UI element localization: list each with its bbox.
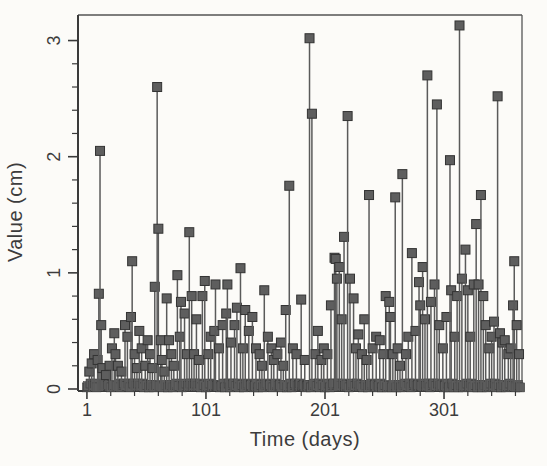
data-marker	[110, 329, 119, 338]
data-marker	[395, 361, 404, 370]
data-marker	[135, 326, 144, 335]
data-marker	[337, 315, 346, 324]
x-tick-label: 301	[429, 400, 459, 420]
data-marker	[96, 146, 105, 155]
data-marker	[167, 350, 176, 359]
data-marker	[162, 294, 171, 303]
data-marker	[157, 355, 166, 364]
y-tick-label: 2	[44, 152, 64, 162]
data-marker	[175, 332, 184, 341]
data-marker	[509, 301, 518, 310]
data-marker	[343, 112, 352, 121]
data-marker	[160, 367, 169, 376]
data-marker	[432, 100, 441, 109]
data-marker	[474, 280, 483, 289]
data-marker	[200, 276, 209, 285]
data-marker	[515, 350, 524, 359]
data-marker	[180, 309, 189, 318]
data-marker	[192, 315, 201, 324]
data-marker	[285, 181, 294, 190]
data-marker	[393, 344, 402, 353]
data-marker	[198, 292, 207, 301]
y-tick-label: 3	[44, 36, 64, 46]
data-marker	[238, 344, 247, 353]
data-marker	[461, 245, 470, 254]
x-tick-label: 101	[191, 400, 221, 420]
stem-plot: 01231101201301 Value (cm) Time (days)	[0, 0, 547, 466]
data-marker	[430, 280, 439, 289]
data-marker	[279, 361, 288, 370]
data-marker	[187, 292, 196, 301]
data-marker	[485, 344, 494, 353]
data-marker	[126, 312, 135, 321]
data-marker	[97, 321, 106, 330]
data-marker	[300, 355, 309, 364]
data-marker	[418, 263, 427, 272]
data-marker	[365, 191, 374, 200]
data-marker	[292, 350, 301, 359]
data-marker	[445, 156, 454, 165]
data-marker	[94, 289, 103, 298]
data-marker	[307, 109, 316, 118]
data-marker	[416, 301, 425, 310]
data-marker	[143, 336, 152, 345]
data-marker	[176, 297, 185, 306]
data-marker	[153, 83, 162, 92]
data-marker	[398, 170, 407, 179]
data-marker	[165, 336, 174, 345]
data-marker	[455, 21, 464, 30]
data-marker	[510, 257, 519, 266]
data-marker	[476, 191, 485, 200]
data-marker	[230, 321, 239, 330]
data-marker	[379, 350, 388, 359]
data-marker	[385, 297, 394, 306]
data-marker	[345, 274, 354, 283]
data-marker	[223, 280, 232, 289]
y-axis-label: Value (cm)	[4, 162, 26, 262]
data-marker	[349, 294, 358, 303]
data-marker	[128, 257, 137, 266]
data-marker	[204, 350, 213, 359]
data-marker	[132, 364, 141, 373]
x-tick-label: 201	[310, 400, 340, 420]
data-marker	[375, 336, 384, 345]
x-tick-label: 1	[82, 400, 92, 420]
data-marker	[222, 309, 231, 318]
data-marker	[487, 332, 496, 341]
data-marker	[276, 338, 285, 347]
data-marker	[156, 336, 165, 345]
data-marker	[297, 295, 306, 304]
data-marker	[260, 286, 269, 295]
data-marker	[257, 361, 266, 370]
data-marker	[236, 264, 245, 273]
data-marker	[360, 315, 369, 324]
data-marker	[263, 332, 272, 341]
data-marker	[335, 263, 344, 272]
data-marker	[305, 34, 314, 43]
data-marker	[512, 321, 521, 330]
data-marker	[154, 224, 163, 233]
data-marker	[407, 249, 416, 258]
data-marker	[146, 350, 155, 359]
data-marker	[391, 193, 400, 202]
data-marker	[173, 271, 182, 280]
data-marker	[354, 330, 363, 339]
data-marker	[362, 355, 371, 364]
data-marker	[420, 315, 429, 324]
y-tick-label: 0	[44, 384, 64, 394]
y-tick-label: 1	[44, 268, 64, 278]
data-marker	[423, 71, 432, 80]
data-marker	[210, 326, 219, 335]
data-marker	[479, 292, 488, 301]
x-axis-label: Time (days)	[250, 428, 360, 450]
data-marker	[111, 350, 120, 359]
data-marker	[148, 364, 157, 373]
data-marker	[472, 220, 481, 229]
data-marker	[105, 361, 114, 370]
data-marker	[248, 312, 257, 321]
data-marker	[450, 332, 459, 341]
data-marker	[401, 350, 410, 359]
data-marker	[255, 350, 264, 359]
data-marker	[185, 228, 194, 237]
data-marker	[332, 274, 341, 283]
